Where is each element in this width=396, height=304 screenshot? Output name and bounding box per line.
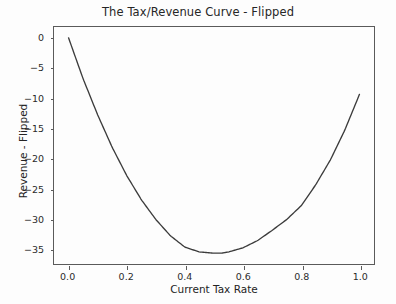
x-tick-mark [303,266,304,270]
plot-area [53,26,375,265]
y-tick-label: −35 [0,244,44,255]
x-tick-label: 0.0 [43,271,93,282]
chart-title: The Tax/Revenue Curve - Flipped [0,5,396,19]
curve-plot [54,27,374,264]
x-tick-label: 0.8 [277,271,327,282]
x-tick-label: 0.2 [101,271,151,282]
figure-canvas: The Tax/Revenue Curve - Flipped 0−5−10−1… [0,0,396,304]
x-tick-mark [361,266,362,270]
revenue-curve-line [69,38,360,253]
x-tick-label: 0.6 [218,271,268,282]
y-axis-label: Revenue - Flipped [17,71,29,231]
x-tick-label: 1.0 [335,271,385,282]
x-axis-label: Current Tax Rate [53,283,375,295]
x-tick-mark [244,266,245,270]
x-tick-mark [127,266,128,270]
x-tick-mark [69,266,70,270]
y-tick-label: 0 [0,31,44,42]
x-tick-label: 0.4 [160,271,210,282]
x-tick-mark [186,266,187,270]
